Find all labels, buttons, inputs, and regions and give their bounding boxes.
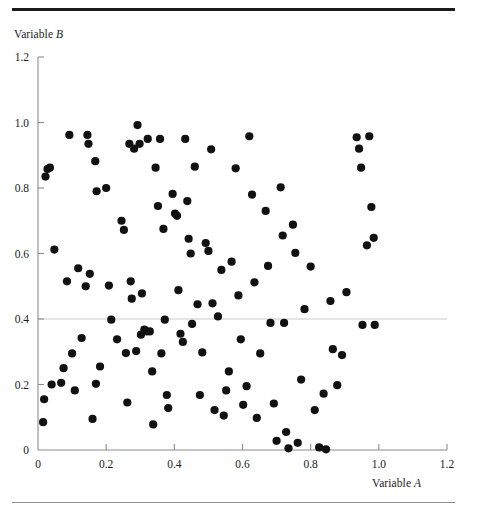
x-tick-label: 0.6 — [235, 458, 250, 470]
data-points — [39, 121, 379, 453]
data-point — [358, 321, 366, 329]
data-point — [57, 379, 65, 387]
data-point — [154, 202, 162, 210]
data-point — [355, 145, 363, 153]
data-point — [63, 277, 71, 285]
y-tick-label: 1.2 — [15, 51, 30, 63]
data-point — [156, 135, 164, 143]
data-point — [59, 364, 67, 372]
x-tick-label: 0 — [35, 458, 41, 470]
data-point — [338, 351, 346, 359]
data-point — [280, 319, 288, 327]
data-point — [65, 131, 73, 139]
data-point — [289, 221, 297, 229]
data-point — [48, 380, 56, 388]
data-point — [41, 172, 49, 180]
data-point — [92, 380, 100, 388]
data-point — [242, 382, 250, 390]
data-point — [326, 297, 334, 305]
data-point — [227, 258, 235, 266]
data-point — [148, 367, 156, 375]
data-point — [88, 415, 96, 423]
data-point — [181, 135, 189, 143]
data-point — [320, 390, 328, 398]
y-tick-label: 0.8 — [15, 182, 30, 194]
data-point — [208, 299, 216, 307]
y-tick-label: 0.2 — [15, 379, 30, 391]
data-point — [135, 140, 143, 148]
data-point — [132, 347, 140, 355]
data-point — [266, 319, 274, 327]
data-point — [144, 135, 152, 143]
data-point — [270, 399, 278, 407]
data-point — [127, 277, 135, 285]
data-point — [102, 184, 110, 192]
data-point — [107, 316, 115, 324]
data-point — [82, 282, 90, 290]
x-tick-labels: 00.20.40.60.81.01.2 — [35, 458, 454, 470]
data-point — [277, 183, 285, 191]
data-point — [202, 239, 210, 247]
data-point — [322, 445, 330, 453]
data-point — [169, 190, 177, 198]
data-point — [133, 121, 141, 129]
data-point — [220, 412, 228, 420]
data-point — [84, 140, 92, 148]
y-tick-label: 0.4 — [15, 313, 30, 325]
data-point — [123, 398, 131, 406]
data-point — [248, 190, 256, 198]
data-point — [159, 225, 167, 233]
x-tick-label: 0.2 — [99, 458, 114, 470]
data-point — [117, 217, 125, 225]
data-point — [294, 439, 302, 447]
data-point — [329, 345, 337, 353]
data-point — [163, 391, 171, 399]
data-point — [71, 386, 79, 394]
data-point — [105, 281, 113, 289]
data-point — [91, 157, 99, 165]
scatter-plot-figure: Variable B Variable A 00.20.40.60.81.01.… — [0, 0, 478, 515]
x-axis — [38, 444, 447, 450]
data-point — [217, 266, 225, 274]
data-point — [146, 327, 154, 335]
y-axis — [38, 57, 44, 450]
data-point — [222, 386, 230, 394]
data-point — [151, 164, 159, 172]
plot-canvas: 00.20.40.60.81.01.2 00.20.40.60.81.01.2 — [0, 0, 478, 515]
data-point — [234, 291, 242, 299]
data-point — [250, 278, 258, 286]
data-point — [68, 349, 76, 357]
data-point — [353, 133, 361, 141]
data-point — [46, 164, 54, 172]
data-point — [149, 420, 157, 428]
data-point — [138, 289, 146, 297]
x-tick-label: 1.2 — [440, 458, 455, 470]
data-point — [214, 312, 222, 320]
data-point — [187, 249, 195, 257]
data-point — [291, 249, 299, 257]
x-tick-label: 1.0 — [372, 458, 387, 470]
data-point — [363, 241, 371, 249]
y-tick-label: 0.6 — [15, 248, 30, 260]
data-point — [74, 264, 82, 272]
x-tick-label: 0.4 — [167, 458, 182, 470]
y-tick-label: 1.0 — [15, 117, 30, 129]
data-point — [307, 263, 315, 271]
data-point — [204, 247, 212, 255]
data-point — [193, 300, 201, 308]
data-point — [232, 164, 240, 172]
data-point — [367, 203, 375, 211]
data-point — [78, 334, 86, 342]
data-point — [120, 226, 128, 234]
data-point — [161, 316, 169, 324]
data-point — [176, 330, 184, 338]
data-point — [86, 270, 94, 278]
data-point — [357, 164, 365, 172]
data-point — [198, 348, 206, 356]
data-point — [253, 414, 261, 422]
data-point — [196, 391, 204, 399]
data-point — [179, 338, 187, 346]
data-point — [173, 212, 181, 220]
data-point — [122, 349, 130, 357]
data-point — [157, 349, 165, 357]
